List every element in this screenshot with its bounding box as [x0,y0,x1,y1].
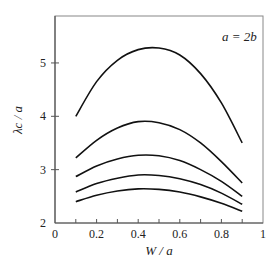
annotation-text: a = 2b [222,29,257,44]
y-tick-label: 4 [40,109,46,123]
x-axis-label: W / a [145,243,173,258]
x-tick-label: 0 [52,227,58,241]
x-tick-label: 0.8 [214,227,229,241]
y-tick-label: 5 [40,56,46,70]
axis-ticks [51,63,242,223]
y-axis-label: λc / a [10,105,25,135]
curve-2 [76,121,242,183]
curve-5 [76,189,242,212]
y-tick-label: 2 [40,216,46,230]
chart: 00.20.40.60.812345 a = 2b W / a λc / a [0,0,278,280]
curve-1 [76,48,242,143]
x-tick-label: 0.4 [131,227,146,241]
axis-tick-labels: 00.20.40.60.812345 [40,56,266,241]
data-curves [76,48,242,212]
x-tick-label: 1 [260,227,266,241]
y-tick-label: 3 [40,163,46,177]
plot-frame [55,16,263,223]
x-tick-label: 0.6 [172,227,187,241]
x-tick-label: 0.2 [89,227,104,241]
